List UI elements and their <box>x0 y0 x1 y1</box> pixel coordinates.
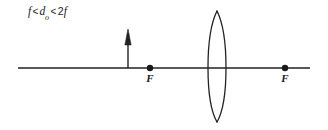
object-arrow <box>125 29 131 68</box>
optics-ray-diagram: f<do<2f F F <box>0 0 328 130</box>
focal-point-right-dot <box>282 65 288 71</box>
object-distance-subscript: o <box>45 13 49 22</box>
two-f-symbol: f <box>64 5 67 17</box>
focal-point-right-label: F <box>278 72 292 84</box>
condition-label: f<do<2f <box>28 5 67 22</box>
lens-right-surface <box>217 11 226 122</box>
focal-point-left-dot <box>147 65 153 71</box>
focal-point-left-label: F <box>143 72 157 84</box>
converging-lens <box>208 11 226 122</box>
object-arrow-head <box>125 29 131 45</box>
lens-left-surface <box>208 11 217 122</box>
relation-operator-2: < <box>50 6 58 17</box>
